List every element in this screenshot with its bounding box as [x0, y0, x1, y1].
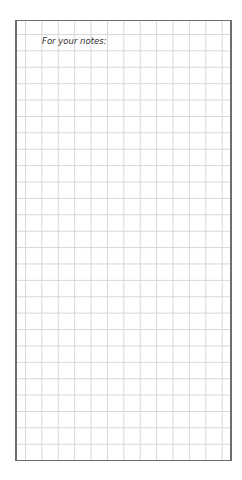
- notes-heading: For your notes:: [42, 36, 107, 46]
- notes-grid-area: For your notes:: [15, 20, 232, 461]
